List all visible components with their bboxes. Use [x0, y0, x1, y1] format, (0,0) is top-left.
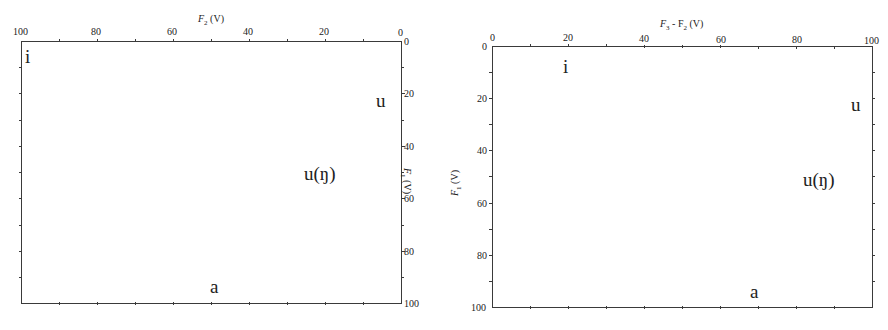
right-right-tick	[872, 255, 875, 256]
right-right-tick	[872, 124, 875, 125]
right-vowel-a: a	[750, 282, 758, 301]
left-x-axis-title: F2 (V)	[198, 14, 224, 27]
right-left-tick	[489, 176, 493, 177]
left-bottom-tick	[249, 302, 250, 305]
right-top-tick	[796, 46, 797, 49]
right-left-tick	[489, 150, 493, 151]
right-bottom-tick	[682, 306, 683, 309]
left-top-tick	[173, 39, 174, 42]
left-ytick-label: 0	[404, 37, 409, 47]
right-right-tick	[872, 98, 875, 99]
right-left-tick	[489, 229, 493, 230]
right-top-tick	[530, 44, 531, 47]
right-xtick-label: 20	[563, 33, 573, 43]
right-x-axis-title: F3 - F2 (V)	[660, 19, 703, 32]
left-vowel-a: a	[210, 277, 218, 296]
right-x-axis-mid: - F	[670, 18, 684, 29]
left-bottom-tick	[173, 302, 174, 305]
left-side-tick	[19, 277, 22, 278]
left-bottom-tick	[325, 302, 326, 305]
right-top-tick	[568, 44, 569, 47]
right-left-tick	[489, 203, 493, 204]
left-vowel-i: i	[25, 47, 30, 66]
left-ytick-label: 20	[404, 89, 414, 99]
right-left-tick	[489, 281, 493, 282]
right-right-tick	[872, 281, 875, 282]
left-top-tick	[363, 39, 364, 42]
right-y-axis-title: F1 (V)	[450, 170, 463, 196]
right-ytick-label: 40	[477, 146, 487, 156]
right-y-axis-sub: 1	[455, 186, 463, 190]
right-left-tick	[489, 255, 493, 256]
left-bottom-tick	[97, 302, 98, 305]
right-bottom-tick	[796, 306, 797, 309]
right-bottom-tick	[720, 306, 721, 309]
left-side-tick	[19, 120, 22, 121]
right-bottom-tick	[606, 306, 607, 309]
right-bottom-tick	[530, 306, 531, 309]
left-right-tick	[401, 67, 404, 68]
left-side-tick	[19, 198, 22, 199]
right-bottom-tick	[568, 306, 569, 309]
left-x-axis-unit: (V)	[208, 13, 224, 24]
left-xtick-label: 0	[398, 28, 403, 38]
right-ytick-label: 100	[471, 303, 486, 313]
left-top-tick	[59, 39, 60, 42]
left-bottom-tick	[135, 302, 136, 305]
right-x-axis-unit: (V)	[687, 18, 703, 29]
left-side-tick	[19, 251, 22, 252]
left-plot-frame	[21, 41, 402, 304]
right-left-tick	[489, 98, 493, 99]
left-bottom-tick	[211, 302, 212, 305]
left-xtick-label: 40	[243, 27, 253, 37]
right-vowel-i: i	[563, 57, 568, 76]
left-y-axis-unit: (V)	[402, 178, 413, 194]
right-top-tick	[644, 45, 645, 48]
left-top-tick	[325, 39, 326, 42]
right-top-tick	[606, 44, 607, 47]
right-vowel-u: u	[851, 95, 861, 114]
right-bottom-tick	[758, 306, 759, 309]
right-top-tick	[834, 46, 835, 49]
left-y-axis-title: F1 (V)	[399, 168, 412, 194]
left-side-tick	[19, 225, 22, 226]
right-xtick-label: 80	[792, 35, 802, 45]
left-ytick-label: 100	[404, 299, 419, 309]
right-bottom-tick	[834, 306, 835, 309]
left-vowel-u-eng: u(ŋ)	[304, 164, 336, 183]
left-bottom-tick	[287, 302, 288, 305]
right-y-axis-var: F	[449, 190, 460, 196]
left-bottom-tick	[59, 302, 60, 305]
right-ytick-label: 80	[477, 251, 487, 261]
right-top-tick	[758, 46, 759, 49]
left-ytick-label: 80	[404, 247, 414, 257]
left-top-tick	[135, 39, 136, 42]
left-bottom-tick	[363, 302, 364, 305]
right-ytick-label: 60	[477, 199, 487, 209]
left-ytick-label: 60	[404, 194, 414, 204]
right-top-tick	[682, 45, 683, 48]
left-right-tick	[401, 120, 404, 121]
right-xtick-label: 60	[716, 35, 726, 45]
right-bottom-tick	[644, 306, 645, 309]
right-top-tick	[720, 45, 721, 48]
right-right-tick	[872, 176, 875, 177]
left-side-tick	[19, 172, 22, 173]
left-side-tick	[19, 67, 22, 68]
right-y-axis-unit: (V)	[449, 170, 460, 186]
left-top-tick	[97, 39, 98, 42]
left-top-tick	[287, 39, 288, 42]
left-xtick-label: 80	[91, 27, 101, 37]
left-ytick-label: 40	[404, 142, 414, 152]
right-xtick-label: 40	[639, 34, 649, 44]
left-right-tick	[401, 225, 404, 226]
left-top-tick	[249, 39, 250, 42]
left-right-tick	[401, 277, 404, 278]
left-xtick-label: 100	[13, 27, 28, 37]
left-vowel-u: u	[376, 91, 386, 110]
right-xtick-label: 100	[864, 36, 879, 46]
right-left-tick	[489, 124, 493, 125]
right-right-tick	[872, 229, 875, 230]
right-right-tick	[872, 150, 875, 151]
left-xtick-label: 20	[319, 27, 329, 37]
